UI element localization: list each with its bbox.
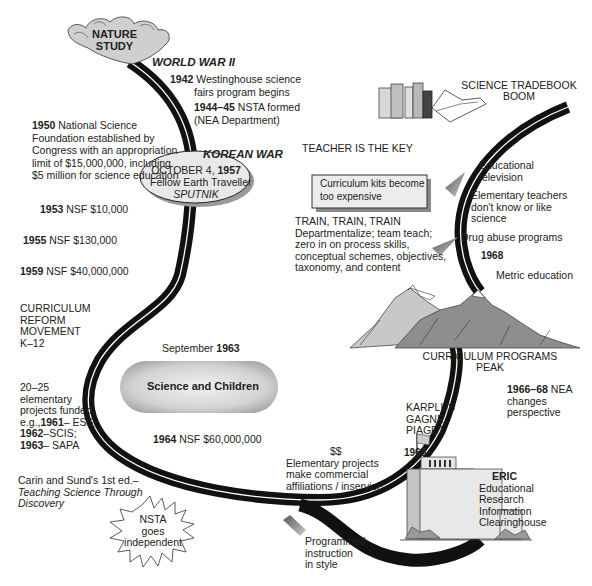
mountains-illustration <box>350 285 580 348</box>
carin-sund-label: Carin and Sund's 1st ed.– Teaching Scien… <box>18 475 143 510</box>
elementary-teachers-label: Elementary teachersdon't know or likesci… <box>471 190 567 225</box>
theorists-label: KARPLUSGAGNEPIAGET <box>406 402 455 437</box>
curriculum-reform-label: CURRICULUMREFORMMOVEMENTK–12 <box>20 303 91 349</box>
world-war-ii-label: WORLD WAR II <box>152 56 235 69</box>
event-1959: 1959 NSF $40,000,000 <box>20 265 129 278</box>
teacher-key-heading: TEACHER IS THE KEY <box>302 142 413 155</box>
event-1953: 1953 NSF $10,000 <box>40 203 128 216</box>
programmed-instruction-label: Programmedinstructionin style <box>305 536 366 571</box>
train-label: TRAIN, TRAIN, TRAIN Departmentalize; tea… <box>295 216 446 274</box>
event-1955: 1955 NSF $130,000 <box>23 234 117 247</box>
eric-label: ERIC Educational Research Information Cl… <box>479 471 547 529</box>
science-children-label: Science and Children <box>147 380 259 393</box>
shadow-wedge <box>283 515 306 536</box>
korean-war-label: KOREAN WAR <box>203 148 283 161</box>
september-1963-label: September 1963 <box>162 342 240 355</box>
event-1964: 1964 NSF $60,000,000 <box>153 433 262 446</box>
metric-education-label: Metric education <box>496 269 573 282</box>
projects-funded-label: 20–25 elementary projects funded, e.g.,1… <box>20 382 96 451</box>
curriculum-peak-label: CURRICULUM PROGRAMSPEAK <box>420 351 560 373</box>
event-1942: 1942 Westinghouse science fairs program … <box>170 73 301 98</box>
nature-study-label: NATURESTUDY <box>92 28 137 52</box>
sputnik-label: OCTOBER 4, 1957 Fellow Earth Traveller S… <box>150 164 242 200</box>
nsta-independent-label: NSTAgoesindependent <box>122 514 184 549</box>
educational-tv-label: Educationaltelevision <box>479 160 534 183</box>
year-1968-bottom: 1968 <box>404 447 426 460</box>
commercial-affiliations-label: $$ Elementary projects make commercial a… <box>286 446 383 492</box>
event-1944: 1944–45 NSTA formed (NEA Department) <box>194 101 300 126</box>
curriculum-kits-label: Curriculum kits becometoo expensive <box>320 178 424 203</box>
drug-abuse-label: Drug abuse programs <box>461 231 563 244</box>
tradebook-boom-label: SCIENCE TRADEBOOKBOOM <box>454 80 584 102</box>
year-1968-right: 1968 <box>481 250 503 263</box>
nea-perspective-label: 1966–68 NEA changes perspective <box>507 384 572 419</box>
